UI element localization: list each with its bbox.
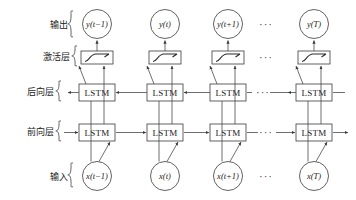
arrow-input-to-forward-4	[316, 142, 327, 162]
activation-box-2	[149, 51, 181, 64]
ellipsis-activation-row: ···	[259, 51, 273, 63]
arrow-backward-to-activation-3	[210, 66, 217, 84]
ellipsis-input-row: ···	[259, 170, 273, 182]
forward-lstm-label-1: LSTM	[85, 128, 110, 138]
ellipsis-forward-row: ···	[259, 126, 273, 138]
input-node-label-1: x(t−1)	[85, 171, 108, 181]
row-braces	[56, 11, 77, 187]
arrow-input-to-forward-2	[167, 142, 178, 162]
row-label-forward: 前向层	[4, 125, 54, 138]
row-label-input: 输入	[26, 170, 68, 183]
output-node-label-1: y(t−1)	[85, 19, 108, 29]
brace-output	[68, 11, 73, 37]
backward-lstm-label-4: LSTM	[302, 88, 327, 98]
forward-lstm-label-2: LSTM	[153, 128, 178, 138]
brace-activation	[72, 46, 77, 66]
timestep-group-2: y(t) LSTM LSTM x(t)	[147, 10, 183, 191]
brace-input	[68, 163, 73, 187]
row-label-backward: 后向层	[4, 85, 54, 98]
forward-lstm-label-4: LSTM	[302, 128, 327, 138]
row-label-activation: 激活层	[20, 50, 70, 63]
input-node-label-4: x(T)	[306, 171, 321, 181]
forward-lstm-label-3: LSTM	[216, 128, 241, 138]
input-node-label-3: x(t+1)	[216, 171, 239, 181]
arrow-backward-to-activation-1	[79, 66, 86, 84]
ellipsis-backward-row: ···	[256, 86, 270, 98]
arrow-backward-to-activation-4	[296, 66, 303, 84]
backward-lstm-label-2: LSTM	[153, 88, 178, 98]
arrow-backward-to-activation-2	[147, 66, 154, 84]
timestep-group-4: y(T) LSTM LSTM x(T)	[296, 10, 332, 191]
row-label-output: 输出	[26, 18, 68, 31]
backward-lstm-label-1: LSTM	[85, 88, 110, 98]
ellipsis-output-row: ···	[259, 18, 273, 30]
bilstm-diagram: y(t−1) LSTM LSTM x(t−1)	[0, 0, 356, 200]
output-node-label-4: y(T)	[306, 19, 321, 29]
activation-box-4	[298, 51, 330, 64]
input-node-label-2: x(t)	[158, 171, 171, 181]
output-node-label-3: y(t+1)	[216, 19, 239, 29]
timestep-group-3: y(t+1) LSTM LSTM x(t+1)	[210, 10, 246, 191]
timestep-group-1: y(t−1) LSTM LSTM x(t−1)	[79, 10, 115, 191]
arrow-input-to-forward-3	[230, 142, 241, 162]
arrow-input-to-forward-1	[99, 142, 110, 162]
backward-lstm-label-3: LSTM	[216, 88, 241, 98]
output-node-label-2: y(t)	[158, 19, 171, 29]
activation-box-1	[81, 51, 113, 64]
activation-box-3	[212, 51, 244, 64]
brace-backward	[56, 81, 61, 101]
brace-forward	[56, 121, 61, 141]
